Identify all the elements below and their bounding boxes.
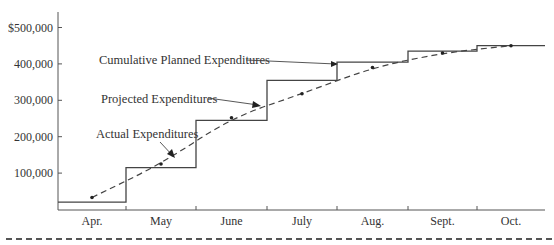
x-tick-label: June (221, 214, 243, 228)
data-point (300, 92, 304, 96)
x-tick-label: Apr. (82, 214, 103, 228)
expenditure-chart: 100,000200,000300,000400,000$500,000 Apr… (0, 0, 554, 245)
x-tick-label: Sept. (430, 214, 454, 228)
y-tick-label: 300,000 (14, 93, 53, 107)
annotation-projected-expenditures: Projected Expenditures (101, 92, 217, 106)
y-tick-label: 400,000 (14, 57, 53, 71)
data-point (371, 66, 375, 70)
data-point (159, 162, 163, 166)
x-tick-label: July (292, 214, 312, 228)
bottom-dashed-divider (6, 238, 552, 240)
y-tick-label: 200,000 (14, 130, 53, 144)
arrowhead-projected-icon (252, 101, 261, 108)
annotation-planned-expenditures: Cumulative Planned Expenditures (99, 53, 270, 67)
x-tick-label: Oct. (501, 214, 521, 228)
x-tick-label: Aug. (361, 214, 385, 228)
x-tick-label: May (150, 214, 172, 228)
annotation-actual-expenditures: Actual Expenditures (96, 127, 199, 141)
y-tick-label: 100,000 (14, 166, 53, 180)
x-axis-ticks: Apr.MayJuneJulyAug.Sept.Oct. (82, 206, 522, 228)
y-axis-ticks: 100,000200,000300,000400,000$500,000 (8, 21, 62, 181)
data-point (230, 116, 234, 120)
data-point (441, 51, 445, 55)
data-point (509, 44, 513, 48)
data-point (90, 196, 94, 200)
actual-projected-dashed-line (92, 46, 511, 198)
data-point-markers (90, 44, 513, 199)
y-tick-label: $500,000 (8, 21, 53, 35)
